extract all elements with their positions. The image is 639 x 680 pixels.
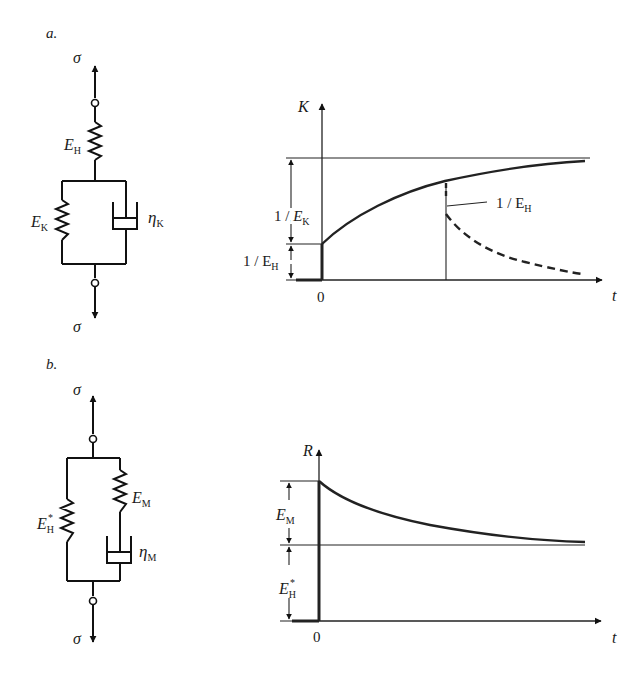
panel-b: b. σ σ EH* EM [36, 356, 617, 647]
origin-label: 0 [317, 289, 325, 305]
connector-node [92, 280, 99, 287]
panel-b-label: b. [46, 356, 57, 372]
burgers-kelvin-model-a [56, 66, 137, 318]
recovery-curve [446, 214, 582, 274]
force-label-top: σ [73, 49, 82, 66]
unload-label-inv-eh: 1 / EH [496, 195, 532, 214]
spring-label-eh-star: EH* [36, 512, 54, 535]
standard-linear-model-b [61, 396, 131, 642]
spring-label-eh: EH [63, 136, 81, 156]
spring-label-em: EM [131, 489, 151, 509]
relaxation-curve [319, 481, 585, 542]
connector-node [90, 598, 97, 605]
y-axis-label: R [302, 442, 313, 459]
origin-label: 0 [313, 629, 321, 645]
figure-canvas: a. σ σ [0, 0, 639, 680]
connector-node [92, 100, 99, 107]
x-axis-label: t [612, 629, 617, 646]
force-label-bottom: σ [73, 630, 82, 647]
spring-label-ek: EK [30, 213, 49, 233]
dim-label-em: EM [275, 506, 295, 526]
creep-graph: K t 0 1 / EK 1 / EK 1 / EH 1 / EH [243, 98, 617, 305]
spring-icon [56, 200, 68, 240]
panel-a: a. σ σ [30, 25, 617, 335]
dim-label-inv-eh: 1 / EH [243, 253, 279, 272]
dim-label-eh-star: EH* [278, 577, 296, 600]
y-axis-label: K [297, 98, 310, 115]
spring-icon [61, 499, 73, 542]
connector-node [90, 436, 97, 443]
force-label-top: σ [73, 381, 82, 398]
panel-a-label: a. [46, 25, 57, 41]
dashpot-label-etak: ηK [148, 208, 164, 229]
x-axis-label: t [612, 287, 617, 304]
spring-icon [114, 470, 126, 512]
creep-curve [322, 161, 585, 244]
relaxation-graph: R t 0 EM EH* [275, 442, 617, 646]
spring-icon [89, 122, 101, 160]
dim-label-inv-ek: 1 / EK [274, 208, 310, 227]
force-label-bottom: σ [73, 318, 82, 335]
dashpot-label-etam: ηM [139, 542, 156, 563]
